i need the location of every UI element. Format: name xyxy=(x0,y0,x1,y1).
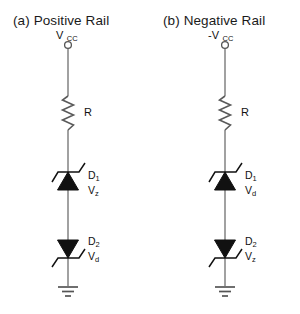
panel-a-d1-voltage-sub: z xyxy=(95,189,99,198)
panel-b-supply-sub: CC xyxy=(223,34,234,43)
panel-a-d1-ref: D xyxy=(88,169,96,181)
panel-b-d1-voltage: V xyxy=(245,184,252,196)
panel-b-d2-ref-label: D2 xyxy=(245,236,257,248)
panel-b-d2-voltage-sub: z xyxy=(252,255,256,264)
panel-b-d1-ref: D xyxy=(245,169,253,181)
circuit-figure: (a) Positive Rail VCC xyxy=(0,0,300,314)
diode-d1-triangle-icon xyxy=(58,172,79,190)
panel-b-d1-voltage-label: Vd xyxy=(245,185,256,197)
panel-a-supply-label: VCC xyxy=(56,30,74,42)
panel-a-d2-voltage-sub: d xyxy=(95,255,99,264)
panel-b-d1-ref-label: D1 xyxy=(245,170,257,182)
panel-a-d1-voltage-label: Vz xyxy=(88,185,99,197)
panel-a-d2-ref-label: D2 xyxy=(88,236,100,248)
panel-b-supply-main: -V xyxy=(208,29,219,41)
panel-a-supply-sub: CC xyxy=(67,34,78,43)
panel-b-d2-voltage: V xyxy=(245,250,252,262)
diode-d1-triangle-icon xyxy=(215,172,236,190)
panel-a-d2-ref-sub: 2 xyxy=(96,240,100,249)
zigzag-resistor-icon xyxy=(63,96,74,130)
panel-b-d2-ref: D xyxy=(245,235,253,247)
diode-d2-triangle-icon xyxy=(58,240,79,258)
zigzag-resistor-icon xyxy=(220,96,231,130)
panel-a-d1-ref-label: D1 xyxy=(88,170,100,182)
panel-b-resistor-label: R xyxy=(241,107,249,118)
panel-a-resistor-label: R xyxy=(84,107,92,118)
panel-a-d2-ref: D xyxy=(88,235,96,247)
diode-d2-triangle-icon xyxy=(215,240,236,258)
panel-a-supply-main: V xyxy=(56,29,63,41)
panel-b-d2-ref-sub: 2 xyxy=(253,240,257,249)
panel-b-schematic xyxy=(150,0,300,314)
panel-b-d1-ref-sub: 1 xyxy=(253,174,257,183)
panel-a-d1-ref-sub: 1 xyxy=(96,174,100,183)
panel-a-schematic xyxy=(0,0,150,314)
panel-b-d2-voltage-label: Vz xyxy=(245,251,256,263)
panel-a-d2-voltage: V xyxy=(88,250,95,262)
panel-b-d1-voltage-sub: d xyxy=(252,189,256,198)
panel-b-supply-label: -VCC xyxy=(208,30,230,42)
panel-positive-rail: (a) Positive Rail VCC xyxy=(0,0,150,314)
panel-a-d2-voltage-label: Vd xyxy=(88,251,99,263)
panel-negative-rail: (b) Negative Rail -VCC R D1 Vd xyxy=(150,0,300,314)
panel-a-d1-voltage: V xyxy=(88,184,95,196)
